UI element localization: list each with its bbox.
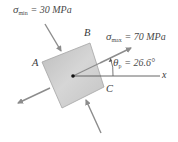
theta-subscript: p xyxy=(118,63,121,69)
theta-value: = 26.6° xyxy=(124,57,155,68)
sigma-max-arrow-left xyxy=(18,88,50,103)
sigma-max-value: = 70 MPa xyxy=(125,31,166,42)
sigma-min-value: = 30 MPa xyxy=(31,4,72,15)
x-axis-label: x xyxy=(162,70,166,80)
center-point xyxy=(71,74,75,78)
point-c-label: C xyxy=(106,84,113,95)
sigma-min-arrow-bottom xyxy=(86,100,101,133)
stress-element-diagram xyxy=(0,0,178,142)
theta-label: θp = 26.6° xyxy=(113,57,155,69)
sigma-max-subscript: max xyxy=(111,37,121,43)
sigma-min-label: σmin = 30 MPa xyxy=(13,4,72,16)
sigma-min-arrow-top xyxy=(45,24,61,51)
sigma-max-label: σmax = 70 MPa xyxy=(106,31,166,43)
sigma-min-subscript: min xyxy=(18,10,27,16)
point-a-label: A xyxy=(32,58,38,69)
point-b-label: B xyxy=(84,28,90,39)
